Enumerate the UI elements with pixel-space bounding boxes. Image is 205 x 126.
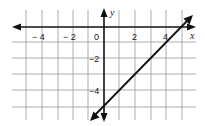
y-tick-minus-2: −2	[89, 54, 99, 64]
y-axis-down-arrow-icon	[101, 113, 108, 122]
x-tick-2: 2	[132, 32, 137, 42]
x-tick-minus-4: − 4	[32, 32, 45, 42]
x-tick-0: 0	[94, 32, 99, 42]
y-axis-label: y	[109, 7, 115, 18]
coordinate-plane: − 4 − 2 0 2 4 −2 −4 x y	[0, 0, 205, 126]
y-axis-up-arrow-icon	[101, 8, 108, 17]
x-axis-label: x	[189, 30, 195, 41]
series-line	[90, 15, 193, 121]
x-axis-left-arrow-icon	[12, 24, 21, 31]
x-tick-minus-2: − 2	[63, 32, 76, 42]
x-tick-4: 4	[163, 32, 168, 42]
y-tick-minus-4: −4	[89, 86, 99, 96]
